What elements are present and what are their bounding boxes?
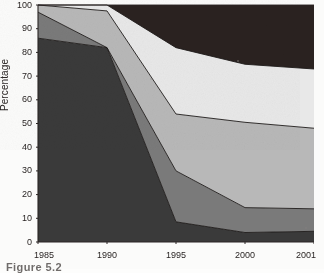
y-tick-label-0: 0 bbox=[6, 238, 32, 247]
area-bands bbox=[38, 5, 314, 242]
y-axis-tick-labels: 0102030405060708090100 bbox=[0, 0, 32, 248]
x-tick-label-1985: 1985 bbox=[34, 250, 54, 260]
x-tick-label-1990: 1990 bbox=[97, 250, 117, 260]
y-tick-label-30: 30 bbox=[6, 166, 32, 175]
x-tick-label-2001: 2001 bbox=[296, 250, 316, 260]
scan-speck bbox=[150, 78, 152, 80]
x-axis-tick-labels: 19851990199520002001 bbox=[36, 250, 314, 264]
y-tick-label-90: 90 bbox=[6, 24, 32, 33]
scan-speck bbox=[305, 227, 307, 229]
y-tick-label-50: 50 bbox=[6, 119, 32, 128]
x-tick-label-1995: 1995 bbox=[166, 250, 186, 260]
y-tick-label-100: 100 bbox=[6, 1, 32, 10]
y-tick-label-80: 80 bbox=[6, 48, 32, 57]
scan-speck bbox=[237, 60, 239, 62]
plot-area bbox=[36, 3, 314, 244]
stacked-area-plot bbox=[36, 3, 314, 244]
figure-caption: Figure 5.2 bbox=[6, 261, 62, 273]
x-tick-label-2000: 2000 bbox=[235, 250, 255, 260]
y-tick-label-20: 20 bbox=[6, 190, 32, 199]
y-tick-label-40: 40 bbox=[6, 143, 32, 152]
y-tick-label-60: 60 bbox=[6, 95, 32, 104]
y-tick-label-70: 70 bbox=[6, 72, 32, 81]
y-tick-label-10: 10 bbox=[6, 214, 32, 223]
